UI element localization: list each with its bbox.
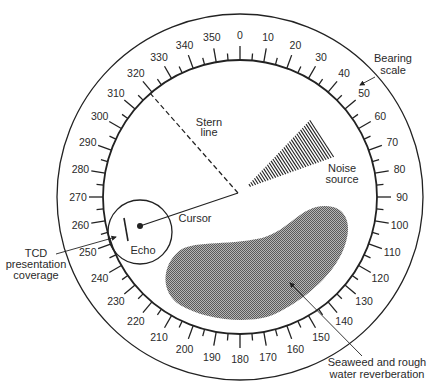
stern-line-label: Sternline xyxy=(196,116,222,138)
major-tick xyxy=(369,244,382,249)
minor-tick xyxy=(101,160,108,162)
bearing-scale-leader xyxy=(360,77,375,85)
minor-tick xyxy=(203,329,205,336)
major-tick xyxy=(359,122,371,129)
tcd-label: TCDpresentationcoverage xyxy=(6,247,67,281)
minor-tick xyxy=(227,54,228,61)
bearing-label: 190 xyxy=(203,351,221,363)
minor-tick xyxy=(138,95,143,100)
minor-tick xyxy=(252,333,253,340)
major-tick xyxy=(264,332,266,346)
bearing-label: 290 xyxy=(79,136,97,148)
bearing-label: 30 xyxy=(315,51,327,63)
bearing-label: 300 xyxy=(91,110,109,122)
bearing-label: 330 xyxy=(150,51,168,63)
reverberation-label: Seaweed and roughwater reverberation xyxy=(328,356,426,380)
bearing-label: 200 xyxy=(176,343,194,355)
minor-tick xyxy=(122,276,128,280)
major-tick xyxy=(309,66,316,78)
bearing-label: 250 xyxy=(79,246,97,258)
major-tick xyxy=(188,326,193,339)
major-tick xyxy=(91,171,105,173)
bearing-label: 120 xyxy=(372,272,390,284)
major-tick xyxy=(214,332,216,346)
bearing-label: 10 xyxy=(262,31,274,43)
major-tick xyxy=(375,221,389,223)
major-tick xyxy=(91,221,105,223)
major-tick xyxy=(287,326,292,339)
minor-tick xyxy=(97,184,104,185)
bearing-label: 80 xyxy=(394,163,406,175)
major-tick xyxy=(165,316,172,328)
major-tick xyxy=(214,48,216,62)
noise-source-label: Noisesource xyxy=(325,162,358,185)
minor-tick xyxy=(319,79,323,85)
major-tick xyxy=(98,145,111,150)
bearing-label: 40 xyxy=(338,67,350,79)
bearing-label: 110 xyxy=(384,246,401,258)
stern-line xyxy=(149,92,238,193)
minor-tick xyxy=(138,294,143,299)
minor-tick xyxy=(275,58,277,65)
minor-tick xyxy=(109,255,115,258)
major-tick xyxy=(188,55,193,68)
major-tick xyxy=(328,81,337,92)
minor-tick xyxy=(364,255,370,258)
major-tick xyxy=(369,145,382,150)
minor-tick xyxy=(179,66,182,72)
bearing-label: 230 xyxy=(107,295,125,307)
bearing-label: 100 xyxy=(391,219,409,231)
minor-tick xyxy=(352,114,358,118)
bearing-label: 350 xyxy=(203,31,221,43)
bearing-label: 320 xyxy=(127,67,145,79)
minor-tick xyxy=(109,136,115,139)
bearing-label: 270 xyxy=(69,191,87,203)
minor-tick xyxy=(364,136,370,139)
noise-source-hatch xyxy=(249,120,334,186)
minor-tick xyxy=(376,184,383,185)
major-tick xyxy=(165,66,172,78)
bearing-label: 160 xyxy=(287,343,305,355)
echo-mark xyxy=(124,218,128,241)
bearing-label: 280 xyxy=(72,163,90,175)
minor-tick xyxy=(97,209,104,210)
cursor-dot xyxy=(137,223,143,229)
bearing-label: 180 xyxy=(231,353,249,365)
minor-tick xyxy=(337,294,342,299)
bearing-label: 140 xyxy=(335,315,353,327)
major-tick xyxy=(345,285,356,294)
bearing-label: 20 xyxy=(290,39,302,51)
bearing-label: 170 xyxy=(259,351,277,363)
minor-tick xyxy=(101,232,108,234)
bearing-label: 310 xyxy=(107,87,125,99)
cursor-label: Cursor xyxy=(178,212,211,224)
minor-tick xyxy=(227,333,228,340)
major-tick xyxy=(328,302,337,313)
minor-tick xyxy=(372,160,379,162)
major-tick xyxy=(287,55,292,68)
minor-tick xyxy=(203,58,205,65)
major-tick xyxy=(124,100,135,109)
bearing-label: 340 xyxy=(176,39,194,51)
bearing-label: 130 xyxy=(355,295,373,307)
major-tick xyxy=(359,266,371,273)
minor-tick xyxy=(275,329,277,336)
minor-tick xyxy=(122,114,128,118)
bearing-label: 90 xyxy=(396,191,408,203)
sonar-display-diagram: 0102030405060708090100110120130140150160… xyxy=(0,0,441,391)
major-tick xyxy=(309,316,316,328)
minor-tick xyxy=(157,79,161,85)
major-tick xyxy=(143,302,152,313)
minor-tick xyxy=(376,209,383,210)
major-tick xyxy=(109,266,121,273)
minor-tick xyxy=(298,66,301,72)
echo-label: Echo xyxy=(130,244,155,256)
bearing-label: 210 xyxy=(150,331,168,343)
minor-tick xyxy=(252,54,253,61)
bearing-label: 220 xyxy=(127,315,145,327)
minor-tick xyxy=(298,321,301,327)
major-tick xyxy=(264,48,266,62)
major-tick xyxy=(124,285,135,294)
bearing-label: 260 xyxy=(72,219,90,231)
bearing-label: 0 xyxy=(237,29,243,41)
